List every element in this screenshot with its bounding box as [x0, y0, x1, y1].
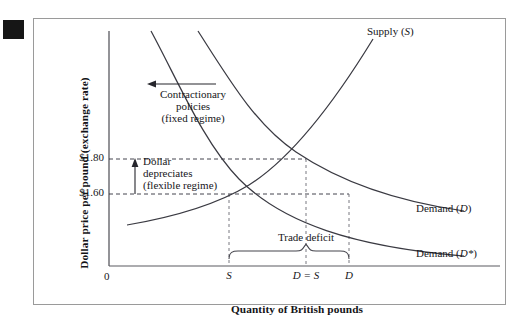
demand-dstar-label-symbol: D*	[460, 247, 473, 259]
demand-d-label-symbol: D	[460, 202, 468, 214]
supply-curve	[127, 39, 373, 225]
x-tick-label-D: D	[340, 270, 358, 282]
y-axis-title: Dollar price per pound (exchange rate)	[78, 73, 90, 273]
x-tick-label-D-equals-S: D = S	[284, 270, 328, 282]
depreciation-arrow-icon	[132, 158, 139, 194]
y-tick-label-160: $1.60	[58, 187, 104, 199]
supply-label-text: Supply (	[367, 25, 405, 37]
demand-d-label-text: Demand (	[416, 202, 460, 214]
contractionary-arrow-icon	[147, 80, 216, 87]
supply-demand-plot	[34, 19, 505, 304]
supply-label-tail: )	[410, 25, 414, 37]
contractionary-annotation: Contractionary policies (fixed regime)	[138, 89, 248, 125]
trade-deficit-label: Trade deficit	[252, 232, 360, 244]
x-tick-label-S: S	[220, 270, 238, 282]
demand-dstar-curve	[151, 31, 464, 256]
demand-dstar-label-tail: )	[473, 247, 477, 259]
depreciation-line-2: depreciates	[143, 168, 217, 180]
corner-square-marker	[3, 20, 24, 39]
supply-curve-label: Supply (S)	[367, 26, 414, 38]
x-axis-title: Quantity of British pounds	[142, 303, 452, 315]
y-tick-label-180: $1.80	[58, 152, 104, 164]
demand-d-curve-label: Demand (D)	[416, 203, 471, 215]
demand-d-label-tail: )	[468, 202, 472, 214]
trade-deficit-brace	[229, 244, 349, 259]
figure-frame: Dollar price per pound (exchange rate) Q…	[33, 18, 506, 305]
contractionary-line-3: (fixed regime)	[138, 113, 248, 125]
figure-page: Dollar price per pound (exchange rate) Q…	[0, 0, 524, 325]
origin-label: 0	[104, 271, 110, 283]
demand-dstar-label-text: Demand (	[416, 247, 460, 259]
depreciation-annotation: Dollar depreciates (flexible regime)	[143, 156, 217, 192]
depreciation-line-3: (flexible regime)	[143, 180, 217, 192]
contractionary-line-2: policies	[138, 101, 248, 113]
demand-dstar-curve-label: Demand (D*)	[416, 248, 477, 260]
